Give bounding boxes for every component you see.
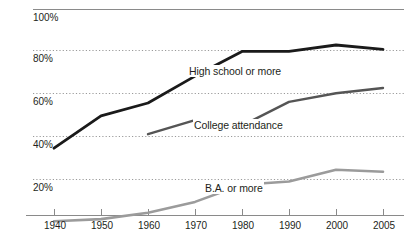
y-tick-label-20: 20%	[33, 182, 53, 193]
x-tick-label-1950: 1950	[82, 220, 122, 231]
y-tick-label-100: 100%	[33, 12, 58, 23]
y-tick-label-40: 40%	[33, 139, 53, 150]
education-attainment-line-chart: 100% 80% 60% 40% 20% 1940 1950 1960 1970…	[0, 0, 411, 241]
series-annotation-high-school: High school or more	[188, 65, 282, 77]
series-annotation-ba: B.A. or more	[204, 182, 264, 194]
x-tick-label-1940: 1940	[35, 220, 75, 231]
y-tick-label-80: 80%	[33, 53, 53, 64]
series-line-high-school-or-more	[54, 45, 383, 148]
x-tick-label-1980: 1980	[223, 220, 263, 231]
x-tick-label-1990: 1990	[270, 220, 310, 231]
x-axis-ticks	[55, 209, 384, 215]
x-tick-label-1970: 1970	[176, 220, 216, 231]
series-line-ba-or-more	[54, 170, 383, 222]
x-tick-label-1960: 1960	[129, 220, 169, 231]
series-annotation-college: College attendance	[193, 119, 284, 131]
y-tick-label-60: 60%	[33, 96, 53, 107]
x-tick-label-2005: 2005	[364, 220, 404, 231]
x-tick-label-2000: 2000	[317, 220, 357, 231]
